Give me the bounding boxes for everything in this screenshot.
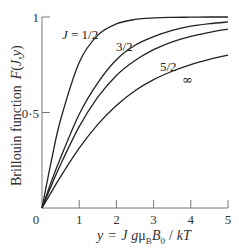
svg-text:y=JgμBB0/kT: y=JgμBB0/kT — [95, 228, 192, 246]
curve-label-j-half: J = 1/2 — [62, 27, 98, 42]
curve-series-2 — [42, 29, 228, 208]
x-tick-label: 4 — [188, 212, 195, 227]
curve-label-5-2: 5/2 — [160, 59, 177, 74]
brillouin-chart: 1234500·51 J = 1/2 3/2 5/2 ∞ Brillouin f… — [0, 0, 239, 250]
origin-label: 0 — [33, 212, 40, 227]
curve-series-1 — [42, 22, 228, 208]
x-axis-label: y=JgμBB0/kT — [95, 228, 192, 246]
svg-text:Brillouin functionF(J,y): Brillouin functionF(J,y) — [9, 45, 25, 186]
x-tick-label: 5 — [225, 212, 232, 227]
y-tick-label: 0·5 — [22, 106, 39, 121]
ylabel-text: Brillouin function — [9, 85, 24, 186]
curve-label-infinity: ∞ — [182, 72, 193, 87]
curves — [42, 17, 228, 208]
ylabel-func: F — [9, 70, 24, 80]
curve-series-3 — [42, 55, 228, 208]
x-tick-label: 3 — [150, 212, 157, 227]
x-tick-label: 1 — [76, 212, 83, 227]
x-tick-label: 2 — [113, 212, 120, 227]
x-ticks — [79, 200, 228, 208]
y-axis-label: Brillouin functionF(J,y) — [9, 45, 25, 186]
y-tick-label: 1 — [33, 10, 40, 25]
curve-label-3-2: 3/2 — [116, 39, 133, 54]
